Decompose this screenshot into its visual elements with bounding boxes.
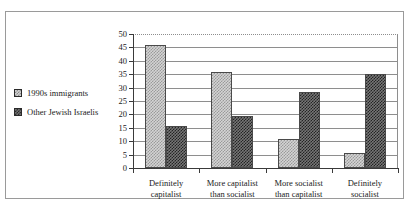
x-axis-category-label: More socialistthan capitalist — [266, 178, 332, 200]
bar — [166, 126, 187, 168]
x-axis-category-label: Definitelycapitalist — [133, 178, 199, 200]
y-axis-tick-label: 20 — [107, 110, 127, 118]
x-axis-tick — [266, 168, 267, 173]
x-axis-category-label: Definitelysocialist — [332, 178, 398, 200]
bar-groups — [133, 34, 398, 168]
bar-group — [133, 34, 199, 168]
x-axis-tick — [398, 168, 399, 173]
y-axis-tick-label: 25 — [107, 97, 127, 105]
bar-group — [199, 34, 265, 168]
x-axis-tick — [332, 168, 333, 173]
bar-group — [332, 34, 398, 168]
legend-item-1990s-immigrants: 1990s immigrants — [14, 85, 114, 101]
bar — [344, 153, 365, 168]
bar — [365, 74, 386, 168]
y-axis-tick-mark — [129, 141, 133, 142]
y-axis-tick-label: 5 — [107, 151, 127, 159]
x-axis-tick — [133, 168, 134, 173]
y-axis-tick-mark — [129, 61, 133, 62]
chart-legend: 1990s immigrants Other Jewish Israelis — [14, 85, 114, 123]
x-axis-tick — [199, 168, 200, 173]
y-axis-tick-label: 10 — [107, 137, 127, 145]
legend-swatch-dark-checker-icon — [14, 108, 22, 116]
bar — [299, 92, 320, 168]
plot-area: 50454035302520151050 — [133, 34, 398, 168]
legend-item-other-jewish-israelis: Other Jewish Israelis — [14, 104, 114, 120]
bar — [145, 45, 166, 168]
y-axis-tick-mark — [129, 101, 133, 102]
y-axis-tick-label: 15 — [107, 124, 127, 132]
bar — [232, 116, 253, 168]
y-axis-tick-mark — [129, 128, 133, 129]
y-axis-tick-label: 35 — [107, 70, 127, 78]
bar — [211, 72, 232, 168]
legend-label: 1990s immigrants — [27, 88, 88, 98]
x-axis-category-label: More capitalistthan socialist — [199, 178, 265, 200]
bar — [278, 139, 299, 168]
y-axis-tick-label: 50 — [107, 30, 127, 38]
legend-label: Other Jewish Israelis — [27, 107, 98, 117]
y-axis-tick-mark — [129, 47, 133, 48]
x-axis-ticks — [133, 168, 398, 174]
y-axis-tick-label: 0 — [107, 164, 127, 172]
y-axis-tick-label: 45 — [107, 43, 127, 51]
y-axis-tick-mark — [129, 88, 133, 89]
y-axis-tick-mark — [129, 114, 133, 115]
chart-frame: 1990s immigrants Other Jewish Israelis 5… — [5, 11, 404, 199]
legend-swatch-light-checker-icon — [14, 89, 22, 97]
y-axis-tick-mark — [129, 74, 133, 75]
y-axis-tick-label: 40 — [107, 57, 127, 65]
bar-group — [266, 34, 332, 168]
y-axis-tick-mark — [129, 34, 133, 35]
y-axis-tick-label: 30 — [107, 84, 127, 92]
x-axis-labels: DefinitelycapitalistMore capitalistthan … — [133, 178, 398, 200]
y-axis-tick-mark — [129, 155, 133, 156]
